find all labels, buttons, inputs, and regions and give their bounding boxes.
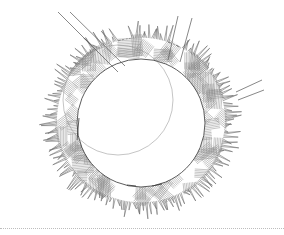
path-right-ledge-2 — [238, 90, 264, 100]
dotted-divider — [0, 228, 284, 229]
inner-circle — [77, 59, 205, 187]
path-right-ledge — [236, 80, 262, 92]
path-top-right-posts-2 — [180, 18, 192, 62]
plan-drawing — [0, 0, 284, 235]
bottom-marks — [77, 118, 162, 186]
